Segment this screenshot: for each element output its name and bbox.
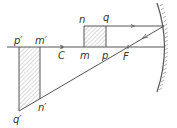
label-n-prime: n′: [38, 102, 47, 113]
ray-diagram: n q m p C F p′ m′ n′ q′: [0, 0, 177, 128]
label-p-prime: p′: [13, 35, 23, 46]
label-q: q: [103, 12, 109, 23]
label-n: n: [79, 14, 85, 25]
label-p: p: [101, 50, 108, 61]
image-shaded-region: [19, 47, 40, 111]
label-q-prime: q′: [13, 114, 22, 125]
label-F: F: [123, 51, 129, 62]
object-shaded-region: [84, 26, 106, 47]
label-C: C: [58, 50, 65, 61]
label-m: m: [80, 50, 90, 61]
label-m-prime: m′: [35, 35, 48, 46]
